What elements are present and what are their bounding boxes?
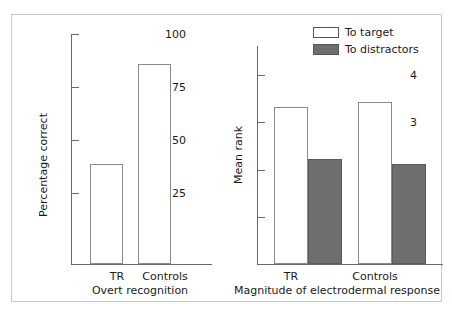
legend: To target To distractors: [313, 25, 419, 59]
figure-frame: Percentage correct 100 75 50 25 TR Contr…: [11, 14, 442, 302]
legend-swatch-to-distractors-icon: [313, 44, 339, 55]
x-axis-title-left: Overt recognition: [92, 285, 188, 297]
y-tick-label-75: 75: [172, 82, 186, 93]
legend-item-to-target: To target: [313, 25, 419, 40]
bar-tr-to-target: [274, 107, 308, 264]
plot-area-left: 100 75 50 25: [71, 34, 198, 265]
y-tick-3: [258, 122, 265, 123]
x-category-label-tr-left: TR: [110, 271, 124, 283]
x-axis-line-right: [257, 264, 443, 265]
y-tick-1: [258, 217, 265, 218]
y-tick-50: [72, 140, 79, 141]
x-category-label-controls-left: Controls: [142, 271, 188, 283]
x-category-label-controls-right: Controls: [352, 271, 398, 283]
y-tick-25: [72, 193, 79, 194]
plot-area-right: 4 3 2 1: [257, 46, 429, 265]
bar-controls-overt: [138, 64, 171, 264]
bar-tr-to-distractors: [308, 159, 342, 264]
y-tick-100: [72, 34, 79, 35]
bar-tr-overt: [90, 164, 123, 264]
y-tick-label-50: 50: [172, 135, 186, 146]
legend-label-to-distractors: To distractors: [345, 44, 419, 56]
y-tick-label-4: 4: [410, 70, 417, 81]
y-tick-2: [258, 170, 265, 171]
x-axis-title-right: Magnitude of electrodermal response: [234, 285, 440, 297]
bar-controls-to-target: [358, 102, 392, 264]
y-tick-75: [72, 87, 79, 88]
y-axis-title-right: Mean rank: [233, 126, 245, 184]
legend-item-to-distractors: To distractors: [313, 42, 419, 57]
y-tick-4: [258, 75, 265, 76]
x-axis-line-left: [71, 264, 212, 265]
legend-swatch-to-target-icon: [313, 27, 339, 38]
bar-controls-to-distractors: [392, 164, 426, 264]
y-axis-line-left: [71, 34, 72, 265]
chart-panel-electrodermal: Mean rank 4 3 2 1 TR: [227, 15, 443, 303]
y-axis-line-right: [257, 46, 258, 265]
y-tick-label-25: 25: [172, 188, 186, 199]
y-axis-title-left: Percentage correct: [38, 113, 50, 217]
chart-panel-overt-recognition: Percentage correct 100 75 50 25 TR Contr…: [12, 15, 227, 303]
legend-label-to-target: To target: [345, 27, 394, 39]
y-tick-label-3: 3: [410, 117, 417, 128]
y-tick-label-100: 100: [165, 29, 186, 40]
figure-container: Percentage correct 100 75 50 25 TR Contr…: [0, 0, 452, 319]
x-category-label-tr-right: TR: [284, 271, 298, 283]
